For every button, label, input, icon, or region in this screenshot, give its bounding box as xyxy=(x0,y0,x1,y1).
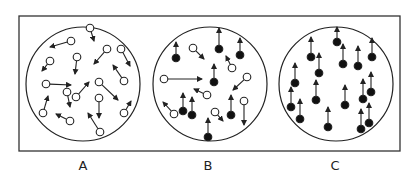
molecule-dot xyxy=(120,77,128,85)
velocity-arrow-icon xyxy=(42,64,48,71)
open-molecule xyxy=(73,53,81,74)
container-circle xyxy=(153,27,267,141)
molecule-dot xyxy=(170,110,178,118)
panel-label-c: C xyxy=(330,158,339,173)
filled-molecule xyxy=(215,28,223,53)
filled-molecule xyxy=(307,37,315,61)
molecule-dot xyxy=(189,44,197,52)
filled-molecule xyxy=(324,107,332,131)
molecule-dot xyxy=(63,88,71,96)
molecule-dot xyxy=(46,57,54,65)
molecule-dot xyxy=(172,54,180,62)
molecule-dot xyxy=(117,45,125,53)
filled-molecule xyxy=(172,42,180,62)
panel-c xyxy=(279,27,393,141)
open-molecule xyxy=(50,37,75,47)
molecule-dot xyxy=(188,111,196,119)
open-molecule xyxy=(95,94,103,118)
filled-molecule xyxy=(367,72,375,96)
velocity-arrow-icon xyxy=(113,65,122,78)
panel-label-a: A xyxy=(79,158,88,173)
velocity-arrow-icon xyxy=(68,96,70,107)
molecule-dot xyxy=(95,94,103,102)
velocity-arrow-icon xyxy=(78,82,89,94)
open-molecule xyxy=(240,97,248,125)
molecule-dot xyxy=(39,109,47,117)
open-molecule xyxy=(86,24,94,41)
velocity-arrow-icon xyxy=(102,85,118,100)
molecule-dot xyxy=(243,73,251,81)
molecule-dot xyxy=(120,109,128,117)
molecule-dot xyxy=(66,117,74,125)
filled-molecule xyxy=(227,95,235,119)
open-molecule xyxy=(194,89,211,99)
velocity-arrow-icon xyxy=(94,52,105,64)
filled-molecule xyxy=(210,64,218,86)
filled-molecule xyxy=(365,103,373,127)
velocity-arrow-icon xyxy=(226,56,230,65)
filled-molecule xyxy=(354,46,362,70)
velocity-arrow-icon xyxy=(233,80,244,90)
molecule-diagram xyxy=(0,0,416,173)
molecule-dot xyxy=(291,79,299,87)
molecule-dot xyxy=(95,78,103,86)
molecule-dot xyxy=(365,119,373,127)
open-molecule xyxy=(39,96,48,117)
filled-molecule xyxy=(333,27,341,46)
molecule-dot xyxy=(287,103,295,111)
open-molecule xyxy=(42,57,54,71)
velocity-arrow-icon xyxy=(123,52,130,66)
molecule-dot xyxy=(103,45,111,53)
velocity-arrow-icon xyxy=(218,115,223,121)
filled-molecule xyxy=(188,97,196,119)
filled-molecule xyxy=(287,87,295,111)
open-molecule xyxy=(63,88,71,107)
outer-frame xyxy=(19,16,400,151)
velocity-arrow-icon xyxy=(44,96,48,109)
open-molecule xyxy=(233,73,251,90)
open-molecule xyxy=(56,114,74,125)
molecule-dot xyxy=(312,96,320,104)
molecule-dot xyxy=(72,93,80,101)
molecule-dot xyxy=(210,78,218,86)
panel-a xyxy=(26,24,140,141)
molecule-dot xyxy=(339,60,347,68)
molecule-dot xyxy=(357,125,365,133)
molecule-dot xyxy=(211,108,219,116)
open-molecule xyxy=(226,56,236,72)
molecule-dot xyxy=(240,97,248,105)
open-molecule xyxy=(94,45,111,64)
velocity-arrow-icon xyxy=(50,84,71,85)
filled-molecule xyxy=(179,93,187,115)
molecule-dot xyxy=(354,62,362,70)
molecule-dot xyxy=(341,101,349,109)
molecule-dot xyxy=(86,24,94,32)
molecule-dot xyxy=(96,128,104,136)
molecule-dot xyxy=(367,88,375,96)
velocity-arrow-icon xyxy=(126,101,131,110)
open-molecule xyxy=(211,108,223,121)
open-molecule xyxy=(72,82,89,101)
filled-molecule xyxy=(291,63,299,87)
molecule-dot xyxy=(368,53,376,61)
open-molecule xyxy=(120,101,131,117)
panel-b xyxy=(153,27,267,141)
velocity-arrow-icon xyxy=(75,61,77,74)
molecule-dot xyxy=(215,45,223,53)
molecule-dot xyxy=(73,53,81,61)
molecule-dot xyxy=(324,123,332,131)
filled-molecule xyxy=(312,80,320,104)
molecule-dot xyxy=(333,38,341,46)
open-molecule xyxy=(163,102,178,118)
molecule-dot xyxy=(236,51,244,59)
molecule-dot xyxy=(359,95,367,103)
molecule-dot xyxy=(160,75,168,83)
filled-molecule xyxy=(204,118,212,141)
open-molecule xyxy=(42,80,71,88)
velocity-arrow-icon xyxy=(91,32,94,41)
filled-molecule xyxy=(296,99,304,123)
open-molecule xyxy=(88,113,104,136)
filled-molecule xyxy=(339,44,347,68)
open-molecule xyxy=(189,44,204,59)
panel-label-b: B xyxy=(204,158,213,173)
